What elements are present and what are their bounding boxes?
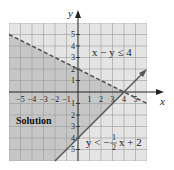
svg-text:−4: −4 [28,95,37,104]
svg-text:y < −: y < − [86,136,109,148]
y-axis-arrow-icon [75,10,81,18]
inequality-label-upper: x − y ≤ 4 [92,46,132,58]
svg-text:−1: −1 [62,95,71,104]
svg-text:3: 3 [71,53,75,62]
svg-text:2: 2 [71,111,75,120]
svg-text:1: 1 [71,99,75,108]
svg-text:x + 2: x + 2 [119,136,142,148]
solution-label: Solution [16,115,52,126]
y-axis-label: y [67,7,73,19]
svg-text:−2: −2 [51,95,60,104]
svg-text:5: 5 [71,145,75,154]
svg-text:1: 1 [71,76,75,85]
svg-text:−5: −5 [16,95,25,104]
svg-text:4: 4 [71,42,75,51]
inequality-graph: x y −5 −4 −3 −2 −1 1 2 3 4 5 5 4 3 2 1 1… [0,0,174,170]
svg-text:2: 2 [112,143,116,152]
svg-text:−3: −3 [39,95,48,104]
svg-text:1: 1 [88,95,92,104]
svg-text:2: 2 [99,95,103,104]
svg-text:1: 1 [112,133,116,142]
svg-text:5: 5 [71,30,75,39]
svg-text:3: 3 [71,122,75,131]
x-axis-label: x [159,95,165,107]
svg-text:4: 4 [122,95,126,104]
